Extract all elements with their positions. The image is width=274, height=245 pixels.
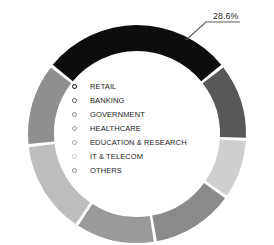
legend-item-label: RETAIL — [90, 82, 116, 91]
donut-segment — [152, 183, 225, 241]
callout-value-label: 28.6% — [213, 11, 238, 21]
legend-bullet-icon — [72, 126, 77, 131]
legend-bullet-icon — [72, 154, 77, 159]
donut-segment — [203, 67, 246, 137]
legend-bullet-icon — [72, 84, 77, 89]
legend-bullet-icon — [72, 112, 77, 117]
legend-bullet-icon — [72, 98, 77, 103]
legend-item: RETAIL — [72, 80, 192, 93]
legend-item: GOVERNMENT — [72, 108, 192, 121]
legend-item-label: GOVERNMENT — [90, 110, 145, 119]
legend-item-label: EDUCATION & RESEARCH — [90, 138, 187, 147]
legend-item-label: BANKING — [90, 96, 125, 105]
chart-legend: RETAILBANKINGGOVERNMENTHEALTHCAREEDUCATI… — [72, 80, 192, 177]
donut-segment — [53, 25, 222, 81]
legend-bullet-icon — [72, 168, 77, 173]
donut-chart: 28.6% RETAILBANKINGGOVERNMENTHEALTHCAREE… — [0, 0, 274, 245]
donut-segment — [205, 139, 245, 195]
legend-item-label: HEALTHCARE — [90, 124, 141, 133]
legend-item: HEALTHCARE — [72, 122, 192, 135]
donut-segment — [78, 204, 154, 243]
legend-item-label: OTHERS — [90, 166, 122, 175]
legend-item: OTHERS — [72, 165, 192, 178]
donut-segment — [28, 67, 71, 144]
callout-leader-line — [186, 22, 240, 40]
legend-item: IT & TELECOM — [72, 150, 192, 163]
legend-item: EDUCATION & RESEARCH — [72, 136, 192, 149]
legend-item: BANKING — [72, 94, 192, 107]
legend-bullet-icon — [72, 140, 77, 145]
legend-item-label: IT & TELECOM — [90, 152, 143, 161]
